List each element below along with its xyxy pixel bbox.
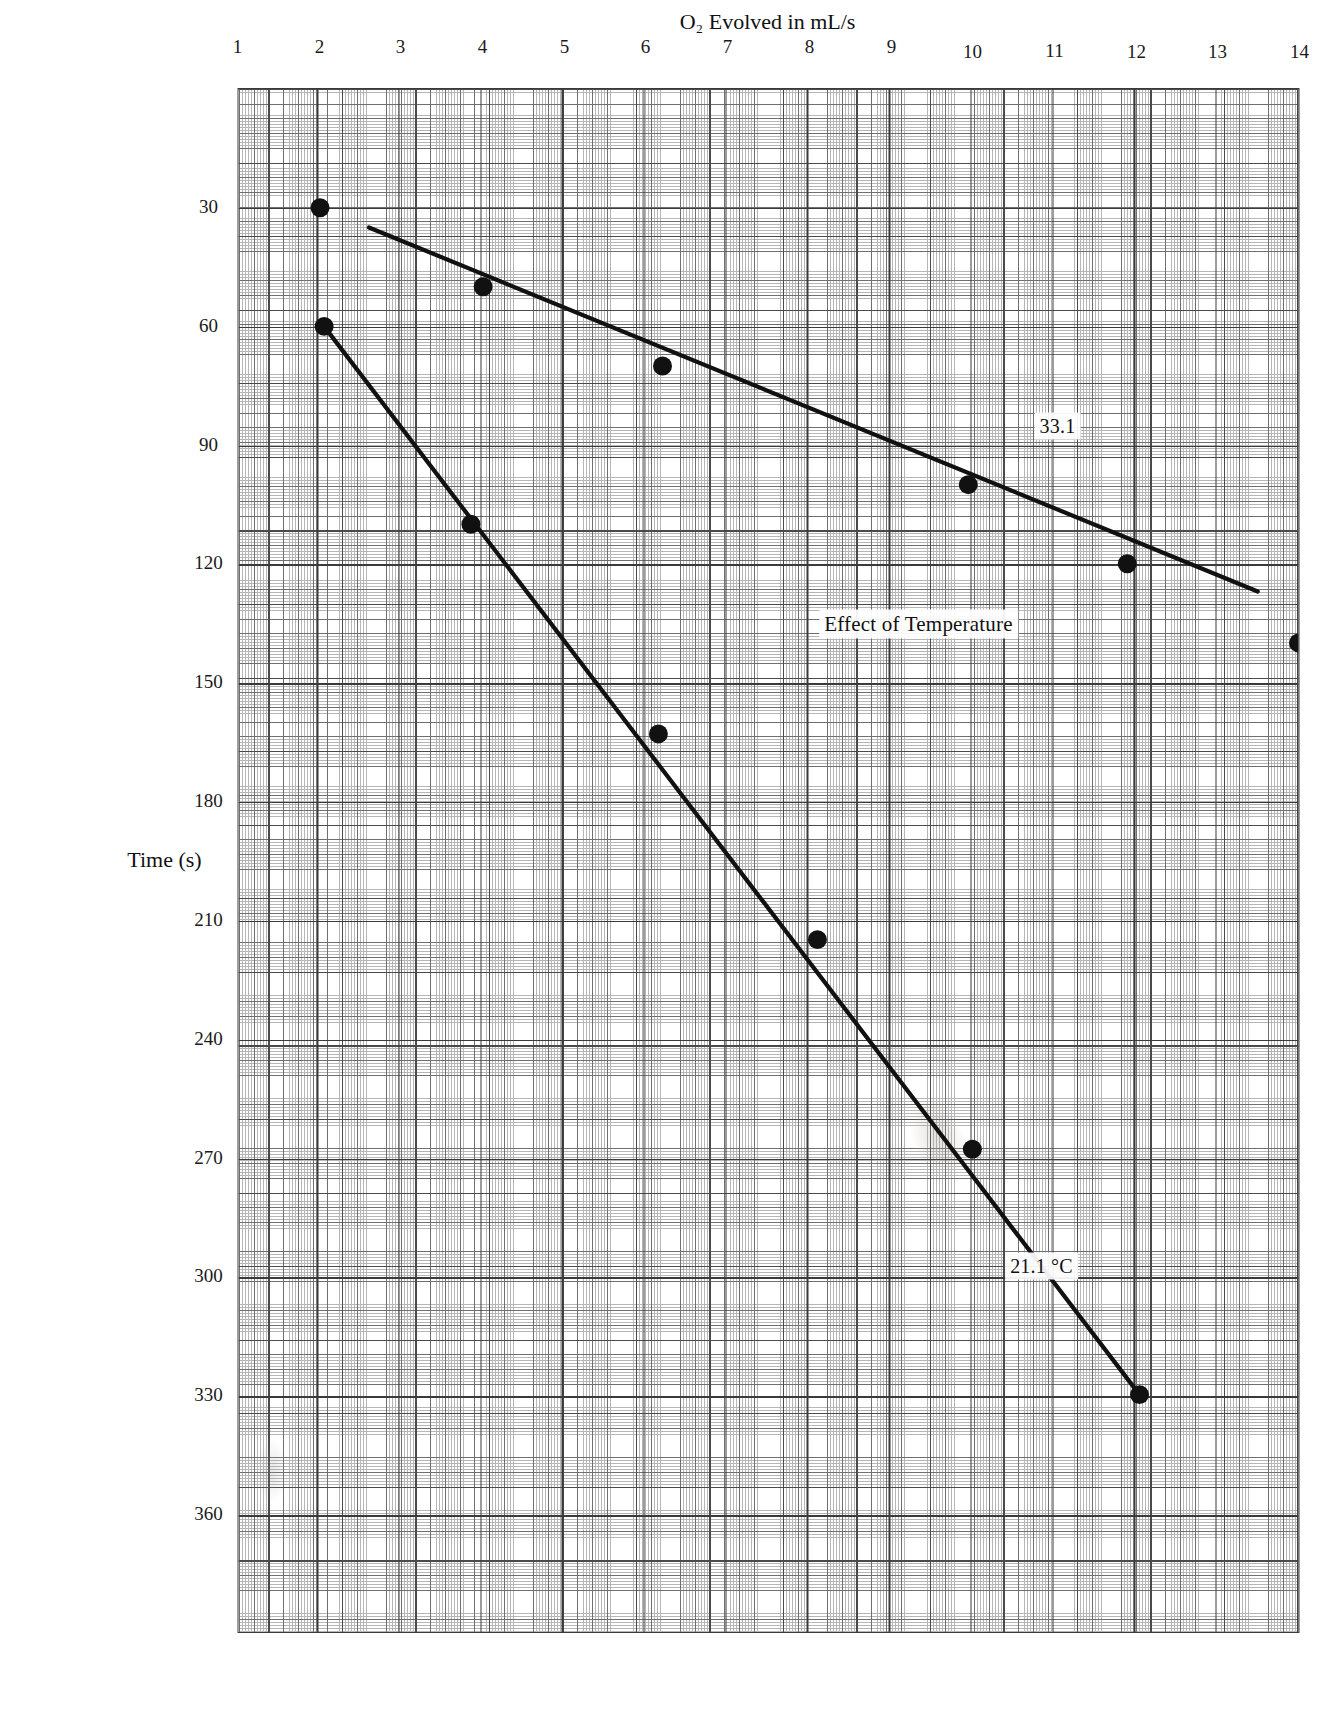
x-tick-label: 330 xyxy=(194,1384,223,1406)
x-axis-title: Time (s) xyxy=(127,847,201,873)
series-label-33-1: 33.1 xyxy=(1034,412,1080,439)
y-gridline xyxy=(561,89,562,1632)
y-tick-label: 7 xyxy=(722,36,732,58)
y-gridline xyxy=(1052,89,1053,1632)
y-tick-label: 13 xyxy=(1208,41,1227,63)
x-tick-label: 120 xyxy=(194,552,223,574)
y-gridline xyxy=(970,89,971,1632)
y-tick-label: 11 xyxy=(1045,40,1063,62)
y-gridline xyxy=(806,89,807,1632)
y-tick-label: 9 xyxy=(886,36,896,58)
x-tick-label: 150 xyxy=(194,671,223,693)
y-gridline xyxy=(1133,89,1134,1632)
plot-area: Effect of Temperature 33.1 21.1 °C xyxy=(237,88,1299,1633)
y-tick-label: 6 xyxy=(641,36,651,58)
x-gridline xyxy=(238,1515,1298,1516)
y-gridline xyxy=(643,89,644,1632)
x-gridline xyxy=(238,1159,1298,1160)
y-gridline xyxy=(888,89,889,1632)
x-gridline xyxy=(238,1277,1298,1278)
x-tick-label: 210 xyxy=(194,909,223,931)
y-gridline xyxy=(725,89,726,1632)
y-gridline xyxy=(480,89,481,1632)
y-tick-label: 5 xyxy=(559,36,569,58)
x-tick-label: 360 xyxy=(194,1503,223,1525)
x-tick-label: 270 xyxy=(194,1147,223,1169)
graph-paper-grid xyxy=(238,89,1298,1632)
x-gridline xyxy=(238,683,1298,684)
x-gridline xyxy=(238,921,1298,922)
chart-title: Effect of Temperature xyxy=(819,609,1018,638)
y-axis-title: O₂ Evolved in mL/s xyxy=(679,9,855,35)
page-canvas: Effect of Temperature 33.1 21.1 °C 30609… xyxy=(0,0,1337,1714)
x-gridline xyxy=(238,564,1298,565)
series-label-21-1-c: 21.1 °C xyxy=(1004,1252,1077,1279)
y-gridline xyxy=(1215,89,1216,1632)
x-gridline xyxy=(238,1396,1298,1397)
y-tick-label: 12 xyxy=(1126,41,1145,63)
y-tick-label: 4 xyxy=(477,36,487,58)
y-tick-label: 14 xyxy=(1290,41,1309,63)
y-tick-label: 2 xyxy=(314,36,324,58)
x-gridline xyxy=(238,802,1298,803)
rotated-figure-wrapper: Effect of Temperature 33.1 21.1 °C 30609… xyxy=(0,0,1337,1714)
y-tick-label: 1 xyxy=(232,36,242,58)
y-gridline xyxy=(398,89,399,1632)
y-tick-label: 8 xyxy=(804,36,814,58)
y-tick-label: 3 xyxy=(396,36,406,58)
x-gridline xyxy=(238,208,1298,209)
x-gridline xyxy=(238,1040,1298,1041)
x-tick-label: 60 xyxy=(199,315,218,337)
x-tick-label: 240 xyxy=(194,1028,223,1050)
x-tick-label: 300 xyxy=(194,1265,223,1287)
x-tick-label: 180 xyxy=(194,790,223,812)
x-tick-label: 30 xyxy=(199,196,218,218)
y-gridline xyxy=(316,89,317,1632)
y-gridline xyxy=(1297,89,1298,1632)
paper-smudge-secondary xyxy=(256,1439,286,1503)
y-tick-label: 10 xyxy=(963,41,982,63)
chart-figure: Effect of Temperature 33.1 21.1 °C 30609… xyxy=(0,0,1337,1714)
x-gridline xyxy=(238,446,1298,447)
x-gridline xyxy=(238,327,1298,328)
x-tick-label: 90 xyxy=(199,434,218,456)
